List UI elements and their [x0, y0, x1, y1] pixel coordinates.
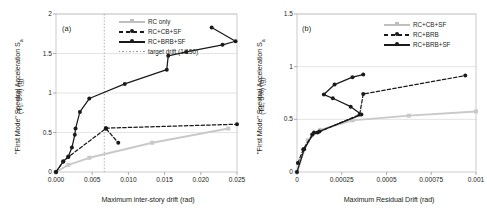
data-point	[295, 170, 299, 174]
legend-key-icon	[384, 41, 410, 49]
series-line	[297, 75, 363, 172]
x-tick-label: 0.000	[42, 176, 70, 183]
figure-container: (a) RC onlyRC+CB+SFRC+BRB+SFtarget drift…	[0, 0, 487, 216]
x-tick-label: 0.005	[78, 176, 106, 183]
data-point	[66, 155, 70, 159]
legend-key-icon	[384, 21, 410, 29]
x-tick-label: 0	[283, 176, 311, 183]
legend-item[interactable]: RC+CB+SF	[119, 27, 198, 37]
y-tick-label: 0.5	[271, 115, 293, 122]
legend-item[interactable]: RC+BRB+SF	[119, 37, 198, 47]
chart-panel-b: (b) RC+CB+SFRC+BRBRC+BRB+SF Maximum Resi…	[244, 0, 487, 216]
series-line	[297, 111, 476, 172]
data-point	[312, 131, 316, 135]
data-point	[317, 129, 321, 133]
legend-b: RC+CB+SFRC+BRBRC+BRB+SF	[384, 20, 450, 50]
data-point	[123, 82, 127, 86]
data-point	[61, 159, 65, 163]
y-tick-label: 2	[30, 10, 52, 17]
legend-key-icon	[119, 28, 145, 36]
data-point	[361, 92, 365, 96]
x-tick-label: 0.00075	[417, 176, 445, 183]
data-point	[87, 97, 91, 101]
legend-item[interactable]: target drift (1/150)	[119, 47, 198, 57]
data-point	[165, 68, 169, 72]
data-point	[322, 93, 326, 97]
legend-label: RC+BRB	[413, 32, 439, 39]
data-point	[331, 96, 335, 100]
legend-label: target drift (1/150)	[148, 49, 198, 56]
panel-a-yaxis-title-line2: (T₁, 5%) (g)	[16, 51, 24, 141]
data-point	[235, 122, 239, 126]
legend-a: RC onlyRC+CB+SFRC+BRB+SFtarget drift (1/…	[119, 17, 198, 57]
data-point	[54, 170, 58, 174]
x-tick-label: 0.015	[151, 176, 179, 183]
x-tick-label: 0.010	[114, 176, 142, 183]
data-point	[361, 73, 365, 77]
plot-area-b	[244, 0, 487, 216]
data-point	[234, 39, 238, 43]
data-point	[302, 147, 306, 151]
legend-item[interactable]: RC+BRB	[384, 30, 450, 40]
legend-item[interactable]: RC+CB+SF	[384, 20, 450, 30]
series-line	[56, 129, 228, 172]
legend-key-icon	[119, 18, 145, 26]
y-tick-label: 1	[271, 63, 293, 70]
legend-label: RC only	[148, 19, 170, 26]
y-tick-label: 0.5	[30, 129, 52, 136]
legend-key-icon	[119, 48, 145, 56]
y-tick-label: 0	[271, 168, 293, 175]
y-tick-label: 1.5	[271, 10, 293, 17]
data-point	[104, 126, 108, 130]
y-tick-label: 1.5	[30, 50, 52, 57]
y-tick-label: 0	[30, 168, 52, 175]
data-point	[74, 127, 78, 131]
legend-label: RC+BRB+SF	[413, 42, 450, 49]
data-point	[150, 141, 154, 145]
x-tick-label: 0.00025	[328, 176, 356, 183]
data-point	[474, 109, 478, 113]
chart-panel-a: (a) RC onlyRC+CB+SFRC+BRB+SFtarget drift…	[0, 0, 243, 216]
data-point	[407, 114, 411, 118]
legend-key-icon	[384, 31, 410, 39]
legend-key-icon	[119, 38, 145, 46]
data-point	[70, 146, 74, 150]
x-tick-label: 0.020	[187, 176, 215, 183]
data-point	[116, 141, 120, 145]
data-point	[359, 113, 363, 117]
data-point	[349, 105, 353, 109]
x-tick-label: 0.0005	[373, 176, 401, 183]
data-point	[221, 43, 225, 47]
legend-label: RC+BRB+SF	[148, 39, 185, 46]
legend-label: RC+CB+SF	[413, 22, 446, 29]
data-point	[78, 110, 82, 114]
legend-item[interactable]: RC only	[119, 17, 198, 27]
data-point	[210, 25, 214, 29]
data-point	[350, 75, 354, 79]
y-tick-label: 1	[30, 89, 52, 96]
data-point	[87, 156, 91, 160]
panel-b-yaxis-title-line2: (T1, 5%) (g)	[258, 51, 266, 141]
panel-a-tag: (a)	[62, 24, 71, 33]
legend-item[interactable]: RC+BRB+SF	[384, 40, 450, 50]
series-line	[106, 124, 237, 128]
panel-b-xaxis-title: Maximum Residual Drift (rad)	[294, 196, 484, 204]
data-point	[333, 83, 337, 87]
panel-b-yaxis-title-sub: a	[260, 39, 266, 42]
data-point	[463, 74, 467, 78]
data-point	[73, 133, 77, 137]
legend-label: RC+CB+SF	[148, 29, 181, 36]
panel-a-xaxis-title: Maximum inter-story drift (rad)	[53, 196, 243, 204]
panel-a-yaxis-title-sub: a	[18, 39, 24, 42]
panel-b-tag: (b)	[302, 24, 311, 33]
series-line	[56, 129, 118, 172]
data-point	[66, 163, 70, 167]
x-tick-label: 0.001	[462, 176, 487, 183]
data-point	[226, 127, 230, 131]
